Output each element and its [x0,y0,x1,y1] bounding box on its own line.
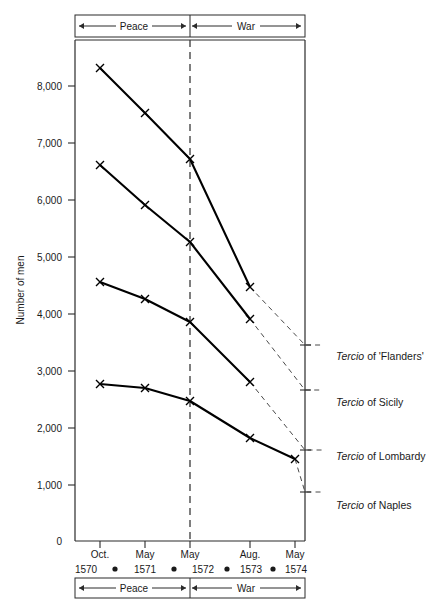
series-sicily-projection [250,319,322,390]
series-lombardy-projection [250,382,322,450]
x-separator-bullet-3 [270,566,275,571]
x-month-label-3: Aug. [240,549,261,560]
x-year-label-1: 1571 [134,564,157,575]
x-year-label-0: 1570 [75,564,98,575]
y-tick-label-7000: 7,000 [37,138,62,149]
bottom-band-label-war: War [237,583,256,594]
y-tick-label-0: 0 [56,536,62,547]
x-year-label-2: 1572 [192,564,215,575]
bottom-war-arrow-right [296,585,301,591]
x-year-label-4: 1574 [285,564,308,575]
x-separator-bullet-0 [112,566,117,571]
top-war-arrow-right [296,23,301,29]
x-year-label-3: 1573 [240,564,263,575]
x-separator-bullet-2 [224,566,229,571]
series-label-flanders-rest: of 'Flanders' [364,350,423,362]
bottom-war-arrow-left [192,585,197,591]
series-lombardy [96,278,322,450]
series-label-lombardy: Tercio of Lombardy [336,450,426,462]
series-sicily [96,161,322,390]
top-period-band: Peace War [75,15,305,37]
series-label-sicily: Tercio of Sicily [336,396,404,408]
series-naples [96,380,322,492]
x-month-label-2: May [181,549,200,560]
y-tick-label-2000: 2,000 [37,423,62,434]
series-flanders-markers [96,64,254,291]
top-peace-arrow-left [79,23,84,29]
series-lombardy-line [100,282,250,382]
chart-svg: Peace War 8,000 7,000 [0,0,440,605]
top-peace-arrow-right [181,23,186,29]
series-label-lombardy-rest: of Lombardy [364,450,426,462]
x-month-label-0: Oct. [91,549,109,560]
chart-figure: Peace War 8,000 7,000 [0,0,440,605]
top-band-label-peace: Peace [120,21,149,32]
top-band-label-war: War [237,21,256,32]
series-label-flanders-italic: Tercio [336,350,364,362]
series-label-sicily-rest: of Sicily [364,396,404,408]
y-tick-label-8000: 8,000 [37,81,62,92]
series-label-sicily-italic: Tercio [336,396,364,408]
series-naples-projection [295,459,322,492]
bottom-band-label-peace: Peace [120,583,149,594]
x-axis-month-labels: Oct. May May Aug. May [91,549,305,560]
bottom-period-band: Peace War [75,578,305,598]
series-label-lombardy-italic: Tercio [336,450,364,462]
series-label-naples: Tercio of Naples [336,499,412,511]
y-tick-label-6000: 6,000 [37,195,62,206]
series-naples-line [100,384,295,459]
y-tick-label-3000: 3,000 [37,366,62,377]
y-tick-label-5000: 5,000 [37,252,62,263]
series-flanders [96,64,322,345]
y-axis-ticks: 8,000 7,000 6,000 5,000 4,000 3,000 2,00… [37,81,75,547]
x-separator-bullet-1 [171,566,176,571]
bottom-peace-arrow-left [79,585,84,591]
x-axis-year-labels: 1570 1571 1572 1573 1574 [75,564,308,575]
bottom-peace-arrow-right [181,585,186,591]
series-label-flanders: Tercio of 'Flanders' [336,350,424,362]
series-label-naples-italic: Tercio [336,499,364,511]
x-axis-ticks [100,541,295,548]
series-sicily-line [100,165,250,319]
y-tick-label-1000: 1,000 [37,480,62,491]
series-label-naples-rest: of Naples [364,499,411,511]
y-axis-title: Number of men [15,256,26,325]
series-flanders-line [100,68,250,287]
series-sicily-markers [96,161,254,323]
series-flanders-projection [250,287,322,345]
top-war-arrow-left [192,23,197,29]
x-month-label-1: May [136,549,155,560]
series-naples-markers [96,380,299,463]
x-month-label-4: May [286,549,305,560]
y-tick-label-4000: 4,000 [37,309,62,320]
